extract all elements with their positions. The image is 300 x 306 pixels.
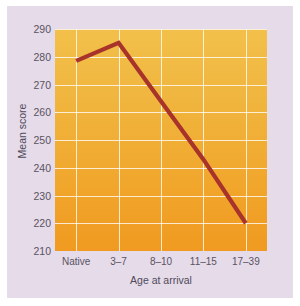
chart-figure: 290280270260250240230220210 Mean score N… [0,0,300,306]
x-axis-tick-labels: Native3–78–1011–1517–39 [55,256,267,270]
y-axis-tick-label: 220 [15,218,51,228]
y-axis-label: Mean score [16,81,28,181]
y-axis-tick-label: 280 [15,52,51,62]
x-axis-tick-label: 11–15 [190,256,217,267]
y-axis-tick-label: 290 [15,24,51,34]
x-axis-label: Age at arrival [55,274,267,286]
x-axis-tick-label: 8–10 [150,256,172,267]
x-axis-tick-label: Native [62,256,90,267]
line-series-mean-score [76,43,246,223]
x-axis-tick-label: 3–7 [110,256,127,267]
plot-area [55,29,267,251]
y-axis-tick-label: 230 [15,191,51,201]
x-axis-tick-label: 17–39 [232,256,260,267]
data-series-line [55,29,267,251]
y-axis-tick-label: 210 [15,246,51,256]
